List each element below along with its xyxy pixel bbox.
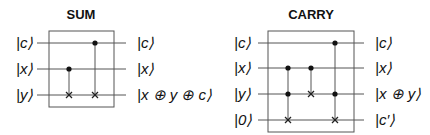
sum-circuit: SUM |c⟩ |x⟩ |y⟩ |c⟩ |x⟩ |x ⊕ y ⊕ c⟩ xyxy=(16,7,212,107)
control-dot-icon xyxy=(285,91,290,96)
control-dot-icon xyxy=(92,40,97,45)
carry-output-c: |c⟩ xyxy=(375,34,392,51)
sum-cnot-x-to-y xyxy=(66,66,72,98)
sum-output-x: |x⟩ xyxy=(137,60,154,77)
carry-title: CARRY xyxy=(288,7,334,22)
sum-output-c: |c⟩ xyxy=(137,34,154,51)
carry-input-x: |x⟩ xyxy=(234,59,251,76)
carry-output-x: |x⟩ xyxy=(375,59,392,76)
carry-toffoli-xy-to-ancilla xyxy=(285,65,291,123)
control-dot-icon xyxy=(285,65,290,70)
carry-toffoli-cy-to-ancilla xyxy=(332,40,338,123)
sum-input-x: |x⟩ xyxy=(16,60,33,77)
sum-input-c: |c⟩ xyxy=(16,34,33,51)
carry-cnot-x-to-y xyxy=(308,65,314,97)
control-dot-icon xyxy=(66,66,71,71)
carry-input-c: |c⟩ xyxy=(234,34,251,51)
carry-input-y: |y⟩ xyxy=(234,85,251,102)
carry-circuit: CARRY |c⟩ |x⟩ |y⟩ |0⟩ |c⟩ |x⟩ |x ⊕ y⟩ |c… xyxy=(234,7,421,132)
sum-output-xyc: |x ⊕ y ⊕ c⟩ xyxy=(137,86,212,103)
control-dot-icon xyxy=(332,40,337,45)
carry-output-xy: |x ⊕ y⟩ xyxy=(375,85,421,102)
carry-input-zero: |0⟩ xyxy=(234,111,252,128)
control-dot-icon xyxy=(308,65,313,70)
sum-input-y: |y⟩ xyxy=(16,86,33,103)
control-dot-icon xyxy=(332,91,337,96)
quantum-circuits-diagram: SUM |c⟩ |x⟩ |y⟩ |c⟩ |x⟩ |x ⊕ y ⊕ c⟩ xyxy=(0,0,430,135)
sum-title: SUM xyxy=(67,7,96,22)
carry-output-cprime: |c′⟩ xyxy=(375,111,395,128)
